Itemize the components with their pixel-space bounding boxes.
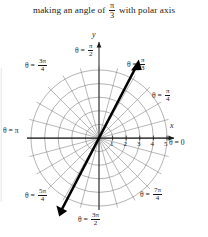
spoke-165 [29,119,99,138]
y-axis-arrowhead [97,42,102,48]
caption-before: making an angle of [33,5,105,15]
spoke-15 [99,119,169,138]
spoke-195 [29,138,99,157]
angle-fraction: π4 [165,88,171,104]
angle-prefix: θ = [169,138,181,147]
spoke-105 [80,68,99,138]
spoke-45 [99,87,150,138]
radial-tick-3: 3 [137,140,141,148]
angle-prefix: θ = [25,191,37,200]
angle-prefix: θ = [75,46,87,55]
angle-fraction: 3π4 [38,58,47,74]
angle-label-theta-5pi-4: θ = 5π4 [25,188,48,204]
angle-label-theta-pi-2: θ = π2 [75,43,95,59]
spoke-300 [99,138,135,200]
spoke-120 [63,76,99,138]
radial-tick-5: 5 [164,140,168,148]
angle-prefix: θ = [127,60,139,69]
angle-label-theta-pi: θ = π [3,127,19,135]
angle-fraction: 7π4 [153,187,162,203]
angle-fraction: π2 [88,43,94,59]
spoke-150 [37,102,99,138]
spoke-135 [48,87,99,138]
angle-fraction-denominator: 4 [38,66,47,73]
spoke-225 [48,138,99,189]
x-axis-label: x [170,122,174,130]
angle-value: π [15,126,19,135]
caption-fraction-denominator: 3 [109,11,115,20]
caption-fraction-numerator: π [109,2,115,12]
angle-prefix: θ = [78,215,90,224]
angle-fraction-denominator: 4 [165,96,171,103]
angle-label-theta-3pi-2: θ = 3π2 [78,212,101,228]
angle-fraction: π3 [140,57,146,73]
angle-label-theta-7pi-4: θ = 7π4 [140,187,163,203]
angle-fraction-denominator: 2 [91,220,100,227]
angle-fraction-denominator: 4 [38,196,47,203]
angle-fraction-denominator: 3 [140,65,146,72]
angle-label-theta-0: θ = 0 [169,139,185,147]
angle-value: 0 [181,138,185,147]
radial-tick-2: 2 [124,140,128,148]
spoke-75 [99,68,118,138]
angle-fraction: 5π4 [38,188,47,204]
figure-page: making an angle of π 3 with polar axis [0,0,208,237]
spoke-285 [99,138,118,208]
caption-fraction: π 3 [109,2,115,20]
angle-prefix: θ = [3,126,15,135]
angle-prefix: θ = [152,91,164,100]
angle-prefix: θ = [25,61,37,70]
spoke-255 [80,138,99,208]
angle-fraction-denominator: 2 [88,51,94,58]
angle-fraction-denominator: 4 [153,195,162,202]
radial-tick-1: 1 [110,140,114,148]
radial-tick-4: 4 [151,140,155,148]
polar-plot: y x 1 2 3 4 5 θ = 0 θ = π4 θ = π3 θ = π2… [0,26,208,237]
angle-label-theta-pi-3: θ = π3 [127,57,147,73]
angle-label-theta-3pi-4: θ = 3π4 [25,58,48,74]
y-axis-label: y [92,31,96,39]
caption: making an angle of π 3 with polar axis [0,2,208,20]
angle-prefix: θ = [140,190,152,199]
angle-label-theta-pi-4: θ = π4 [152,88,172,104]
angle-fraction: 3π2 [91,212,100,228]
caption-after: with polar axis [119,5,175,15]
